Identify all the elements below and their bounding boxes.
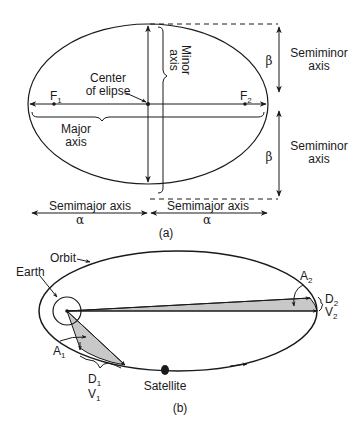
center-label-1: Center bbox=[90, 71, 126, 85]
beta-top-label: β bbox=[266, 54, 273, 68]
satellite-dot bbox=[161, 365, 169, 375]
earth-label: Earth bbox=[16, 265, 45, 279]
a2-label: A2 bbox=[300, 269, 313, 285]
semimajor-right-label: Semimajor axis bbox=[167, 199, 249, 213]
earth-pointer-arrow bbox=[40, 276, 57, 297]
semimajor-left-label: Semimajor axis bbox=[49, 199, 131, 213]
major-axis-label-2: axis bbox=[65, 135, 86, 149]
semiminor-top-label-2: axis bbox=[308, 59, 329, 73]
beta-bottom-label: β bbox=[266, 150, 273, 164]
figure-b: Orbit Earth A1 D1 V1 A2 D2 V2 Satellite … bbox=[16, 251, 339, 415]
figure-a-caption: (a) bbox=[159, 226, 174, 240]
figure-b-caption: (b) bbox=[173, 401, 188, 415]
semiminor-bottom-label-1: Semiminor bbox=[290, 139, 347, 153]
major-axis-label-1: Major bbox=[61, 122, 91, 136]
minor-axis-brace bbox=[158, 27, 167, 193]
semiminor-top-label-1: Semiminor bbox=[290, 46, 347, 60]
focus-f2-label: F2 bbox=[240, 89, 252, 105]
orbit-pointer-arrow bbox=[77, 259, 90, 262]
minor-axis-label-2: axis bbox=[167, 49, 181, 70]
orbit-label: Orbit bbox=[50, 251, 77, 265]
a1-label: A1 bbox=[53, 344, 66, 360]
v1-label: V1 bbox=[88, 387, 101, 403]
alpha-left-label: α bbox=[76, 213, 84, 227]
focus-f1-label: F1 bbox=[50, 89, 62, 105]
kepler-ellipse-figure: Minor axis Center of elipse Major axis F… bbox=[0, 0, 356, 437]
figure-a: Minor axis Center of elipse Major axis F… bbox=[28, 24, 348, 240]
semiminor-bottom-label-2: axis bbox=[308, 152, 329, 166]
d1-label: D1 bbox=[88, 372, 102, 388]
satellite-label: Satellite bbox=[144, 379, 187, 393]
center-label-2: of elipse bbox=[86, 84, 131, 98]
center-point bbox=[146, 102, 150, 106]
d2-brace bbox=[318, 297, 323, 311]
alpha-right-label: α bbox=[203, 213, 211, 227]
